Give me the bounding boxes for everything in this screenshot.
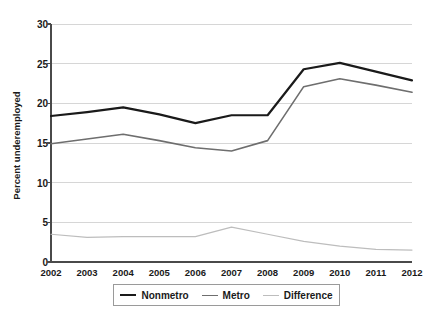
legend-line-icon-metro bbox=[202, 295, 218, 296]
chart-legend: Nonmetro Metro Difference bbox=[113, 284, 340, 306]
x-tick-label: 2003 bbox=[77, 267, 98, 278]
series-line-difference bbox=[51, 227, 412, 250]
series-line-nonmetro bbox=[51, 63, 412, 123]
legend-label-nonmetro: Nonmetro bbox=[141, 290, 188, 301]
legend-label-difference: Difference bbox=[284, 290, 333, 301]
x-tick-label: 2004 bbox=[113, 267, 134, 278]
legend-item-difference[interactable]: Difference bbox=[263, 290, 333, 301]
legend-label-metro: Metro bbox=[223, 290, 250, 301]
x-tick-label: 2005 bbox=[149, 267, 170, 278]
x-tick-label: 2002 bbox=[40, 267, 61, 278]
legend-item-nonmetro[interactable]: Nonmetro bbox=[120, 290, 188, 301]
x-tick-label: 2006 bbox=[185, 267, 206, 278]
legend-line-icon-difference bbox=[263, 295, 279, 296]
chart-plot-area bbox=[0, 0, 426, 325]
x-tick-label: 2007 bbox=[221, 267, 242, 278]
x-tick-label: 2008 bbox=[257, 267, 278, 278]
x-tick-label: 2010 bbox=[329, 267, 350, 278]
x-tick-label: 2012 bbox=[401, 267, 422, 278]
chart-figure: Percent underemployed 051015202530 20022… bbox=[0, 0, 426, 325]
x-tick-label: 2009 bbox=[293, 267, 314, 278]
legend-item-metro[interactable]: Metro bbox=[202, 290, 250, 301]
legend-line-icon-nonmetro bbox=[120, 294, 136, 296]
x-tick-label: 2011 bbox=[366, 267, 387, 278]
